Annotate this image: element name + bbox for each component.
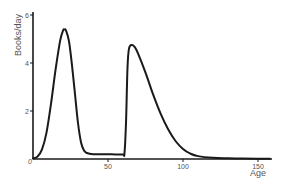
y-tick-label: 4 [25,60,29,67]
x-tick-label: 100 [177,163,189,170]
y-tick-label: 2 [25,108,29,115]
x-tick-label: 50 [104,163,112,170]
books-per-day-line [33,29,270,159]
y-axis-label: Books/day [13,13,23,56]
plot-area [33,29,270,159]
x-axis: 50100150 Age [33,159,272,178]
origin-label: 0 [28,158,32,165]
x-axis-label: Age [250,168,266,178]
y-ticks: 246 [25,12,33,115]
y-tick-label: 6 [25,12,29,19]
y-axis: 246 Books/day [13,12,33,160]
line-chart: 50100150 Age 246 Books/day 0 [0,0,286,188]
x-ticks: 50100150 [104,159,264,170]
